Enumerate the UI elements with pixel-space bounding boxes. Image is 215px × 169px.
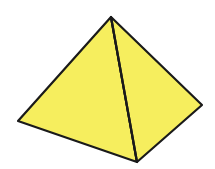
pyramid-diagram bbox=[0, 0, 215, 169]
